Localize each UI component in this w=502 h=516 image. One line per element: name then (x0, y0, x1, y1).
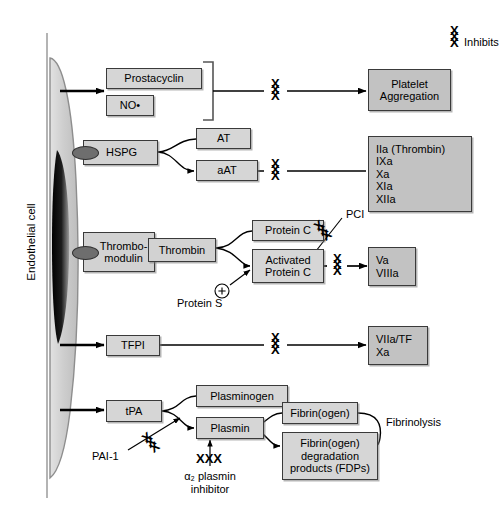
node-coagulation-factors[interactable]: IIa (Thrombin) IXa Xa XIa XIIa (368, 136, 472, 212)
node-aat[interactable]: aAT (196, 160, 258, 181)
node-fibrinogen[interactable]: Fibrin(ogen) (282, 402, 358, 424)
legend-inhibit-label: Inhibits (464, 36, 499, 49)
curve-hspg-to-at (158, 139, 196, 152)
fdp-line-3: products (FDPs) (290, 462, 370, 475)
node-plasmin[interactable]: Plasmin (196, 417, 264, 439)
thrombomodulin-receptor-oval (72, 246, 99, 260)
coag-factor-xa: Xa (376, 168, 389, 181)
node-thrombin[interactable]: Thrombin (148, 238, 216, 262)
figure-canvas: Endothelial cell XXX Inhibits Prostacycl… (0, 0, 502, 516)
inhibit-icon-coagulation-pathway: XXX (269, 161, 280, 180)
coag-factor-xiia: XIIa (376, 193, 396, 206)
node-tpa[interactable]: tPA (106, 400, 162, 422)
label-a2-plasmin-inhibitor-line-2: inhibitor (165, 483, 255, 496)
curve-tpa-to-plasminogen (162, 396, 196, 411)
activated-protein-c-line-1: Activated (265, 254, 310, 267)
plus-symbol-strokes (218, 287, 225, 294)
arrow-proteins-to-apc (230, 270, 250, 285)
thrombomodulin-line-2: modulin (104, 252, 143, 265)
node-activated-protein-c[interactable]: Activated Protein C (252, 249, 324, 283)
node-platelet-aggregation[interactable]: Platelet Aggregation (368, 69, 451, 111)
target-viia-tf: VIIa/TF (376, 333, 412, 346)
label-a2-plasmin-inhibitor-line-1: α₂ plasmin (165, 470, 255, 483)
inhibit-icon-tfpi-pathway: XXX (269, 335, 280, 354)
hspg-receptor-oval (72, 146, 99, 160)
inhibit-icon-apc-pathway: XXX (331, 256, 342, 275)
node-prostacyclin[interactable]: Prostacyclin (106, 68, 202, 89)
label-fibrinolysis: Fibrinolysis (386, 416, 441, 429)
prostacyclin-group-bracket (203, 62, 213, 120)
endothelial-cell-label: Endothelial cell (25, 187, 37, 297)
node-cofactors-va-viiia[interactable]: Va VIIIa (368, 247, 416, 286)
coag-factor-xia: XIa (376, 180, 393, 193)
curve-thrombin-to-apc (216, 248, 250, 266)
inhibit-icon-a2-plasmin-inhibitor: XXX (196, 452, 222, 465)
cofactor-viiia: VIIIa (376, 267, 399, 280)
inhibit-icon-platelet-pathway: XXX (269, 81, 280, 100)
coag-factor-ixa: IXa (376, 155, 393, 168)
node-nitric-oxide[interactable]: NO• (106, 95, 154, 116)
node-viia-tf-xa[interactable]: VIIa/TF Xa (368, 326, 428, 365)
curve-thrombin-to-proteinc (216, 231, 252, 248)
platelet-aggregation-line-2: Aggregation (380, 90, 439, 103)
legend-inhibit-icon: XXX (448, 28, 459, 47)
curve-hspg-to-aat (158, 152, 194, 171)
coag-factor-iia: IIa (Thrombin) (376, 143, 445, 156)
thrombomodulin-line-1: Thrombo- (100, 240, 148, 253)
target-xa: Xa (376, 346, 389, 359)
cofactor-va: Va (376, 254, 389, 267)
label-protein-s: Protein S (177, 297, 222, 310)
fdp-line-2: degradation (301, 450, 359, 463)
platelet-aggregation-line-1: Platelet (391, 78, 428, 91)
node-at[interactable]: AT (196, 128, 251, 149)
node-plasminogen[interactable]: Plasminogen (196, 385, 288, 407)
activated-protein-c-line-2: Protein C (265, 266, 311, 279)
node-fdp[interactable]: Fibrin(ogen) degradation products (FDPs) (282, 432, 378, 480)
label-pci: PCI (346, 208, 364, 221)
fdp-line-1: Fibrin(ogen) (300, 437, 359, 450)
label-pai-1: PAI-1 (92, 450, 119, 463)
node-tfpi[interactable]: TFPI (106, 335, 160, 356)
